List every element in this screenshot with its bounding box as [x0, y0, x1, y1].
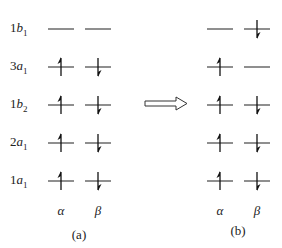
panel-label-a: (a)	[64, 228, 94, 242]
beta-label-a: β	[88, 204, 108, 218]
panel-label-b: (b)	[223, 224, 253, 238]
orbital-occupation-diagram: 1b1 3a1 1b2 2a1 1a1 α β α β (a) (b)	[0, 0, 282, 248]
transition-arrow-icon	[145, 97, 187, 110]
alpha-label-a: α	[51, 204, 71, 218]
alpha-label-b: α	[210, 204, 230, 218]
energy-levels	[0, 0, 282, 248]
beta-label-b: β	[247, 204, 267, 218]
